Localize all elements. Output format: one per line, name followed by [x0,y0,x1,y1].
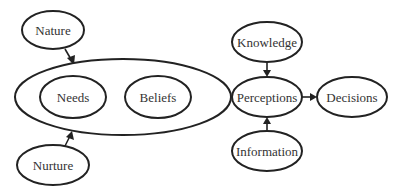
node-information: Information [232,131,302,171]
edge-nurture-to-group [65,131,74,146]
node-perceptions-label: Perceptions [237,90,298,105]
node-knowledge-label: Knowledge [237,35,297,50]
edge-knowledge-to-perceptions [263,62,271,77]
node-knowledge: Knowledge [232,22,302,62]
node-nature-label: Nature [35,23,71,38]
node-needs: Needs [40,76,106,118]
node-needs-label: Needs [57,90,90,105]
node-beliefs: Beliefs [125,76,191,118]
diagram-canvas: Nature Needs Beliefs Nurture Knowledge P… [0,0,402,194]
node-nurture: Nurture [17,145,89,185]
node-decisions: Decisions [317,77,387,117]
edge-information-to-perceptions [263,117,271,131]
node-decisions-label: Decisions [326,90,377,105]
node-perceptions: Perceptions [232,77,302,117]
node-information-label: Information [236,144,299,159]
edge-perceptions-to-decisions [302,93,317,101]
node-nature: Nature [22,11,84,49]
node-nurture-label: Nurture [33,158,74,173]
node-beliefs-label: Beliefs [140,90,177,105]
